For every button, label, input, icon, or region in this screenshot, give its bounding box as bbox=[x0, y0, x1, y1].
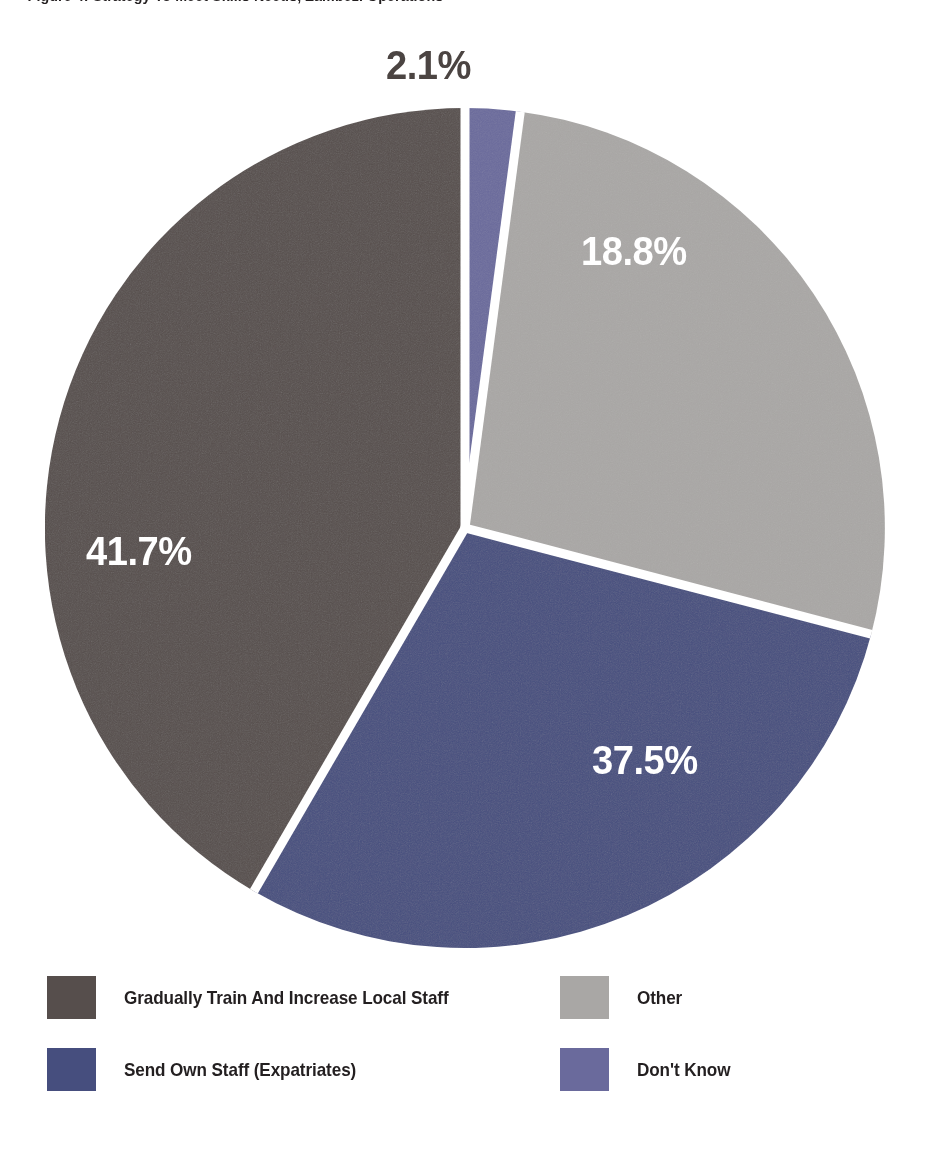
legend-label-train: Gradually Train And Increase Local Staff bbox=[124, 987, 449, 1009]
legend-item-train[interactable]: Gradually Train And Increase Local Staff bbox=[47, 976, 485, 1019]
legend-swatch-send bbox=[47, 1048, 96, 1091]
legend-swatch-dontknow bbox=[560, 1048, 609, 1091]
legend-swatch-other bbox=[560, 976, 609, 1019]
legend-label-dontknow: Don't Know bbox=[637, 1059, 730, 1081]
legend-item-dontknow[interactable]: Don't Know bbox=[560, 1048, 741, 1091]
chart-legend: Gradually Train And Increase Local Staff… bbox=[0, 968, 939, 1148]
legend-item-send[interactable]: Send Own Staff (Expatriates) bbox=[47, 1048, 382, 1091]
slice-label-dontknow: 2.1% bbox=[386, 42, 471, 89]
legend-label-send: Send Own Staff (Expatriates) bbox=[124, 1059, 356, 1081]
legend-label-other: Other bbox=[637, 987, 682, 1009]
pie-chart: 2.1% 18.8% 37.5% 41.7% bbox=[0, 0, 939, 960]
legend-swatch-train bbox=[47, 976, 96, 1019]
legend-item-other[interactable]: Other bbox=[560, 976, 687, 1019]
pie-svg bbox=[45, 108, 885, 948]
